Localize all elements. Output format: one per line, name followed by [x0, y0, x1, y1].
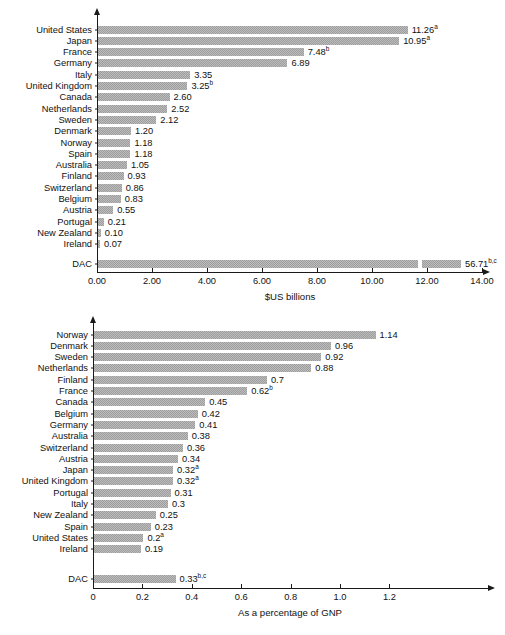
category-label: Finland: [62, 171, 93, 181]
category-label: Norway: [56, 330, 88, 340]
x-axis-tick: [241, 584, 242, 588]
bar-value-label: 0.41: [199, 420, 217, 430]
bar-value-label: 0.2a: [147, 533, 164, 543]
bar-row: Denmark1.20: [0, 126, 505, 137]
bar-value-label: 56.71b,c: [465, 259, 497, 269]
category-label: Canada: [55, 397, 88, 407]
bar: [94, 398, 205, 406]
category-label: Belgium: [54, 409, 88, 419]
bar-value-label: 0.33b,c: [180, 574, 207, 584]
category-label: Finland: [58, 375, 89, 385]
bar-value-label: 0.32a: [177, 476, 199, 486]
category-label: Japan: [67, 36, 92, 46]
bar: [98, 139, 130, 147]
bar-value-label: 3.25b: [191, 81, 213, 91]
chart-oda-volume: United States11.26aJapan10.95aFrance7.48…: [0, 0, 505, 320]
bar-row: Italy0.3: [0, 499, 505, 510]
footnote-marker: b,c: [198, 571, 207, 578]
bar: [94, 489, 171, 497]
bar: [98, 127, 131, 135]
bar-value-label: 1.18: [134, 138, 152, 148]
bar-row: Norway1.18: [0, 137, 505, 148]
category-label: Italy: [71, 499, 88, 509]
bar: [98, 116, 156, 124]
bar: [98, 161, 127, 169]
bar: [94, 364, 311, 372]
bar-row: France0.62b: [0, 386, 505, 397]
x-axis-tick: [142, 584, 143, 588]
bar-row: Germany0.41: [0, 419, 505, 430]
bar-value-label: 2.12: [160, 115, 178, 125]
bar-value-label: 0.21: [108, 217, 126, 227]
figure-two-bar-charts: United States11.26aJapan10.95aFrance7.48…: [0, 0, 505, 635]
bar-value-label: 0.07: [104, 239, 122, 249]
bar-row: Ireland0.19: [0, 544, 505, 555]
bar: [94, 477, 173, 485]
bar: [98, 229, 101, 237]
bar: [94, 444, 183, 452]
bar-value-label: 0.10: [105, 228, 123, 238]
bar-value-label: 0.62b: [251, 386, 273, 396]
y-axis-arrow-icon: [94, 8, 100, 15]
category-label: Portugal: [57, 217, 92, 227]
bar: [98, 172, 124, 180]
category-label: DAC: [68, 574, 88, 584]
y-axis-arrow-icon: [90, 316, 96, 323]
category-label: United Kingdom: [22, 476, 88, 486]
bar-row: Switzerland0.36: [0, 442, 505, 453]
x-axis-tick-label: 12.00: [415, 276, 438, 286]
category-label: Ireland: [60, 544, 88, 554]
bar: [98, 82, 187, 90]
bar: [94, 331, 376, 339]
bar-value-label: 0.3: [172, 499, 185, 509]
category-label: Canada: [59, 92, 92, 102]
bar: [98, 26, 408, 34]
bar-value-label: 0.45: [209, 397, 227, 407]
bar-value-label: 1.20: [135, 126, 153, 136]
category-label: Austria: [63, 205, 92, 215]
bar-row: Canada2.60: [0, 92, 505, 103]
category-label: France: [59, 386, 88, 396]
x-axis-tick: [93, 584, 94, 588]
x-axis-tick-label: 10.00: [360, 276, 383, 286]
category-label: Switzerland: [40, 443, 88, 453]
bar-row: Japan0.32a: [0, 465, 505, 476]
bar-row: United Kingdom3.25b: [0, 81, 505, 92]
category-label: Portugal: [53, 488, 88, 498]
bar-value-label: 0.31: [175, 488, 193, 498]
bar: [94, 511, 156, 519]
x-axis-tick: [317, 268, 318, 272]
bar: [98, 218, 104, 226]
bar-row: Ireland0.07: [0, 239, 505, 250]
x-axis-tick-label: 14.00: [470, 276, 493, 286]
bar-row: New Zealand0.25: [0, 510, 505, 521]
x-axis-tick-label: 0.4: [185, 592, 198, 602]
bar: [94, 500, 168, 508]
category-label: France: [63, 47, 92, 57]
category-label: Germany: [50, 420, 88, 430]
x-axis-tick-label: 4.00: [198, 276, 216, 286]
category-label: Netherlands: [38, 363, 88, 373]
axis-break-mark: [418, 259, 422, 268]
footnote-marker: a: [195, 463, 199, 470]
category-label: New Zealand: [33, 510, 88, 520]
category-label: Japan: [63, 465, 88, 475]
footnote-marker: b,c: [488, 256, 497, 263]
bar-row: United Kingdom0.32a: [0, 476, 505, 487]
bar: [94, 376, 267, 384]
category-label: United States: [36, 25, 92, 35]
x-axis-tick-label: 0: [90, 592, 95, 602]
bar: [94, 421, 195, 429]
bar-row: Japan10.95a: [0, 35, 505, 46]
bar-row: Spain0.23: [0, 521, 505, 532]
x-axis-title: As a percentage of GNP: [238, 607, 342, 618]
category-label: Australia: [56, 160, 92, 170]
x-axis-tick: [207, 268, 208, 272]
x-axis-tick-label: 8.00: [308, 276, 326, 286]
bar-row: Canada0.45: [0, 397, 505, 408]
footnote-marker: a: [160, 531, 164, 538]
footnote-marker: a: [434, 22, 438, 29]
bar-row: Switzerland0.86: [0, 182, 505, 193]
bar: [94, 466, 173, 474]
bar-row: Austria0.34: [0, 453, 505, 464]
